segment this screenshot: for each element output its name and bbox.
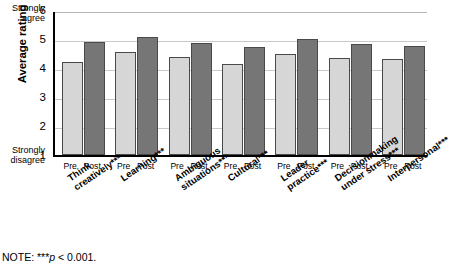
bar-group [62, 12, 106, 155]
bar-group [329, 12, 373, 155]
note-prefix: NOTE: *** [2, 251, 49, 263]
plot-area [53, 12, 427, 157]
y-tick-label-4: 4 [26, 62, 46, 74]
bar-post[interactable] [351, 44, 372, 155]
bar-pre[interactable] [115, 52, 136, 155]
y-tick-label-6: 6 [26, 4, 46, 16]
y-tick-label-3: 3 [26, 91, 46, 103]
note-suffix: < 0.001. [55, 251, 96, 263]
plot-inner [55, 12, 427, 155]
bar-post[interactable] [404, 46, 425, 155]
bar-group [169, 12, 213, 155]
bar-post[interactable] [137, 37, 158, 155]
bar-pre[interactable] [222, 64, 243, 155]
bar-pre[interactable] [275, 54, 296, 156]
bar-group [382, 12, 426, 155]
bar-pre[interactable] [329, 58, 350, 155]
bar-post[interactable] [244, 47, 265, 155]
bar-group [222, 12, 266, 155]
y-tick-label-2: 2 [26, 120, 46, 132]
bar-group [275, 12, 319, 155]
y-tick-label-1: 1 [26, 149, 46, 161]
bar-group [115, 12, 159, 155]
bar-post[interactable] [191, 43, 212, 155]
bar-pre[interactable] [169, 57, 190, 155]
bar-post[interactable] [84, 42, 105, 155]
bar-pre[interactable] [62, 62, 83, 155]
bar-post[interactable] [297, 39, 318, 155]
y-tick-label-5: 5 [26, 33, 46, 45]
figure-note: NOTE: ***p < 0.001. [2, 251, 96, 263]
